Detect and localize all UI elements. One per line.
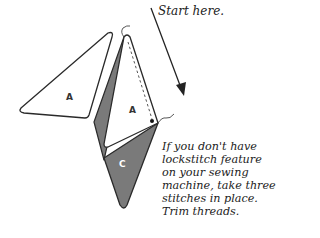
instruction-line: machine, take three: [162, 179, 287, 192]
instruction-line: Trim threads.: [162, 205, 287, 218]
instruction-text: If you don't have lockstitch feature on …: [162, 140, 287, 218]
direction-arrow: [151, 8, 186, 96]
thread-tail-bottom: [158, 114, 174, 123]
start-here-label: Start here.: [158, 4, 224, 18]
arrow-head-icon: [176, 82, 186, 96]
piece-label-a-center: A: [129, 105, 136, 115]
instruction-line: on your sewing: [162, 166, 287, 179]
instruction-line: lockstitch feature: [162, 153, 287, 166]
piece-label-a-left: A: [66, 92, 73, 102]
left-fabric-piece-a: A: [20, 33, 113, 119]
piece-label-c: C: [119, 159, 126, 169]
instruction-line: If you don't have: [162, 140, 287, 153]
instruction-line: stitches in place.: [162, 192, 287, 205]
stitch-end-dot: [150, 119, 154, 123]
